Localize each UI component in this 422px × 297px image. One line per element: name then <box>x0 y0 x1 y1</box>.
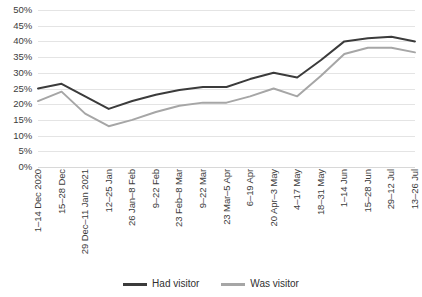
x-axis-tick-label: 29–12 Jul <box>386 169 396 209</box>
y-axis-tick-label: 15% <box>13 115 32 125</box>
y-axis: 0%5%10%15%20%25%30%35%40%45%50% <box>0 0 36 172</box>
legend-swatch-icon <box>123 283 147 286</box>
x-axis-tick-label: 20 Apr–3 May <box>269 169 279 226</box>
y-axis-tick-label: 40% <box>13 37 32 47</box>
series-lines <box>38 10 415 167</box>
y-axis-tick-label: 10% <box>13 131 32 141</box>
x-axis-tick-label: 13–26 Jul <box>410 169 420 209</box>
x-axis-tick-label: 1–14 Dec 2020 <box>33 169 43 232</box>
gridline <box>38 167 415 168</box>
x-axis: 1–14 Dec 202015–28 Dec29 Dec–11 Jan 2021… <box>38 169 415 269</box>
x-axis-tick-label: 29 Dec–11 Jan 2021 <box>80 169 90 254</box>
legend-swatch-icon <box>221 283 245 286</box>
y-axis-tick-label: 25% <box>13 84 32 94</box>
legend-item[interactable]: Was visitor <box>221 279 299 289</box>
y-axis-tick-label: 5% <box>18 147 32 157</box>
x-axis-tick-label: 12–25 Jan <box>104 169 114 212</box>
x-axis-tick-label: 9–22 Mar <box>198 169 208 208</box>
x-axis-tick-label: 15–28 Dec <box>57 169 67 214</box>
y-axis-tick-label: 0% <box>18 162 32 172</box>
plot-area <box>38 10 415 167</box>
x-axis-tick-label: 9–22 Feb <box>151 169 161 208</box>
legend-item[interactable]: Had visitor <box>123 279 199 289</box>
y-axis-tick-label: 20% <box>13 99 32 109</box>
x-axis-tick-label: 15–28 Jun <box>363 169 373 212</box>
legend-label: Had visitor <box>152 279 199 289</box>
x-axis-tick-label: 26 Jan–8 Feb <box>127 169 137 226</box>
x-axis-tick-label: 23 Mar–5 Apr <box>222 169 232 225</box>
y-axis-tick-label: 35% <box>13 52 32 62</box>
x-axis-tick-label: 18–31 May <box>316 169 326 215</box>
y-axis-tick-label: 30% <box>13 68 32 78</box>
x-axis-tick-label: 1–14 Jun <box>339 169 349 207</box>
y-axis-tick-label: 45% <box>13 21 32 31</box>
x-axis-tick-label: 6–19 Apr <box>245 169 255 206</box>
line-chart: 0%5%10%15%20%25%30%35%40%45%50% 1–14 Dec… <box>0 0 422 297</box>
x-axis-tick-label: 4–17 May <box>292 169 302 210</box>
x-axis-tick-label: 23 Feb–8 Mar <box>174 169 184 227</box>
legend-label: Was visitor <box>250 279 299 289</box>
series-line <box>38 37 415 109</box>
y-axis-tick-label: 50% <box>13 5 32 15</box>
chart-legend: Had visitorWas visitor <box>0 279 422 289</box>
